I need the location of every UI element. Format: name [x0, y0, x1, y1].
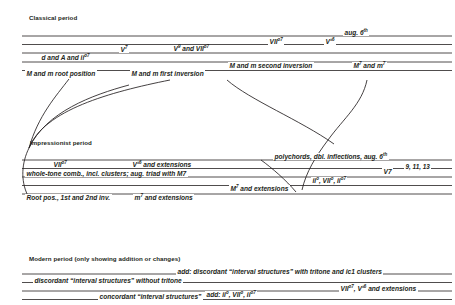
impressionist-label-extension-numbers: 9, 11, 13 [404, 163, 431, 170]
modern-period-title: Modern period (only showing addition or … [29, 255, 180, 262]
classical-label-v-flat6: V♭6 [324, 38, 336, 45]
classical-label-vii-dim7: VIIo7 [268, 38, 284, 45]
diagram-canvas: Classical period aug. 6th VIIo7 V♭6 V7 V… [0, 0, 455, 305]
impressionist-label-whole-tone: whole-tone comb., incl. clusters; aug. t… [25, 170, 188, 177]
classical-label-second-inversion: M and m second inversion [228, 62, 314, 69]
classical-label-root-position: M and m root position [25, 70, 97, 77]
modern-label-vii-v-extensions: VIIo7, V♭6 and extensions [339, 285, 418, 292]
impressionist-period-title: Impressionist period [30, 139, 92, 146]
impressionist-label-polychords: polychords, dbl. inflections, aug. 6th [273, 153, 389, 160]
modern-label-discordant-without-tritone: discordant “interval structures” without… [33, 277, 183, 284]
classical-label-v7: V7 [119, 46, 129, 53]
modern-add-text-1: discordant “interval structures” with tr… [193, 268, 382, 275]
modern-add-prefix-1: add: [178, 268, 194, 275]
impressionist-label-vii-dim7: VIIo7 [52, 161, 68, 168]
modern-label-concordant: concordant “interval structures” [98, 293, 203, 300]
impressionist-label-root-1st-2nd: Root pos., 1st and 2nd inv. [25, 194, 112, 201]
impressionist-label-M7-extensions: M7 and extensions [229, 185, 290, 192]
classical-label-v9-vii-dim7: V9 and VIIo7 [172, 45, 211, 52]
curve-left-c [29, 80, 170, 148]
modern-label-add-ii: add: iio, VIIo, iio7 [205, 291, 257, 298]
impressionist-label-ii-vii-ii7: iio, VIIo, iio7 [311, 177, 347, 184]
curve-middle [227, 80, 334, 144]
curve-right [302, 80, 367, 190]
classical-label-M7-m7: M7 and m7 [352, 62, 387, 69]
modern-label-add-discordant: add: discordant “interval structures” wi… [176, 268, 383, 275]
modern-add-prefix-2: add: [207, 291, 223, 298]
classical-label-first-inversion: M and m first inversion [130, 70, 205, 77]
classical-period-title: Classical period [29, 14, 77, 21]
impressionist-label-v-flat6-extensions: V♭6 and extensions [131, 161, 193, 168]
classical-label-aug6: aug. 6th [343, 29, 369, 36]
impressionist-label-v7: V7 [382, 168, 393, 175]
impressionist-label-m7-extensions: m7 and extensions [133, 194, 194, 201]
modern-add-text-2: iio, VIIo, iio7 [222, 291, 255, 298]
classical-label-d-A-ii-dim7: d and A and iio7 [40, 54, 91, 61]
